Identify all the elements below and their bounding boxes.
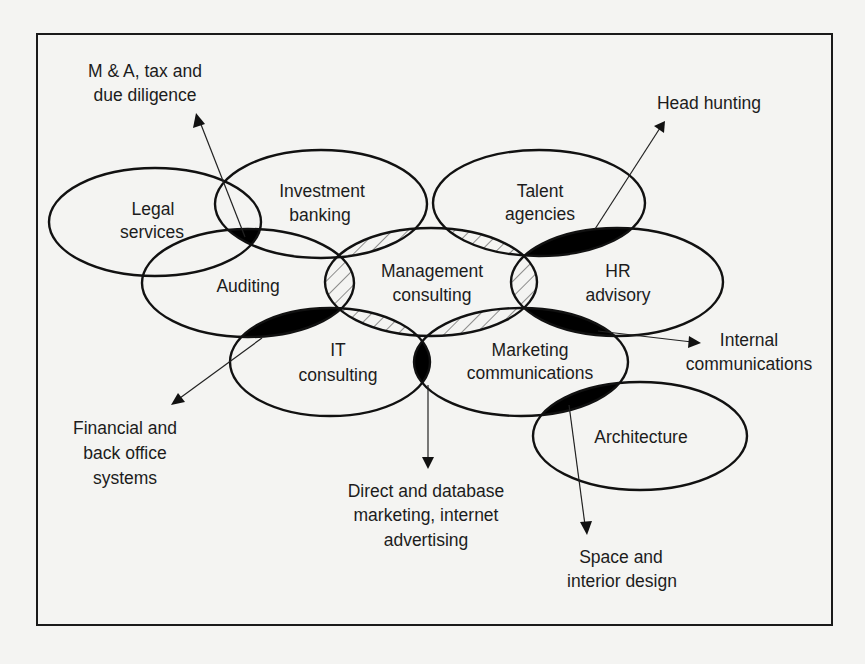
label-hr-advisory: HR bbox=[605, 261, 630, 281]
label-auditing: Auditing bbox=[216, 276, 279, 296]
callout-internal-communications: Internal bbox=[720, 330, 778, 350]
label-investment-banking: Investment bbox=[279, 181, 365, 201]
label-investment-banking-2: banking bbox=[289, 205, 350, 225]
label-it-consulting: IT bbox=[330, 340, 346, 360]
callout-ma-tax-2: due diligence bbox=[93, 85, 196, 105]
label-management-consulting: Management bbox=[381, 261, 483, 281]
label-legal-services-2: services bbox=[120, 222, 184, 242]
label-legal-services: Legal bbox=[132, 199, 175, 219]
service-overlap-diagram: Legal services Investment banking Talent… bbox=[0, 0, 865, 664]
callout-space-design: Space and bbox=[579, 547, 663, 567]
callout-direct-marketing: Direct and database bbox=[348, 481, 505, 501]
label-marketing-communications: Marketing bbox=[492, 340, 569, 360]
callout-ma-tax: M & A, tax and bbox=[88, 61, 202, 81]
label-talent-agencies: Talent bbox=[517, 181, 564, 201]
callout-financial-systems-3: systems bbox=[93, 468, 157, 488]
callout-financial-systems-2: back office bbox=[83, 443, 166, 463]
label-architecture: Architecture bbox=[594, 427, 687, 447]
callout-space-design-2: interior design bbox=[567, 571, 677, 591]
callout-head-hunting: Head hunting bbox=[657, 93, 761, 113]
label-marketing-communications-2: communications bbox=[467, 363, 594, 383]
label-hr-advisory-2: advisory bbox=[585, 285, 650, 305]
callout-internal-communications-2: communications bbox=[686, 354, 813, 374]
label-it-consulting-2: consulting bbox=[299, 365, 378, 385]
callout-financial-systems: Financial and bbox=[73, 418, 177, 438]
label-talent-agencies-2: agencies bbox=[505, 204, 575, 224]
callout-direct-marketing-2: marketing, internet bbox=[354, 505, 499, 525]
label-management-consulting-2: consulting bbox=[393, 285, 472, 305]
callout-direct-marketing-3: advertising bbox=[384, 530, 469, 550]
